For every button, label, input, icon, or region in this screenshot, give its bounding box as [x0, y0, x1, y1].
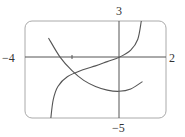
x-max-label: 2 — [169, 52, 175, 64]
increasing-curve — [51, 21, 141, 118]
decreasing-curve — [49, 38, 143, 91]
graph-canvas — [0, 0, 185, 137]
y-max-label: 3 — [116, 5, 122, 17]
x-min-label: −4 — [2, 52, 15, 64]
y-min-label: −5 — [112, 122, 125, 134]
viewing-window-frame — [25, 21, 166, 118]
